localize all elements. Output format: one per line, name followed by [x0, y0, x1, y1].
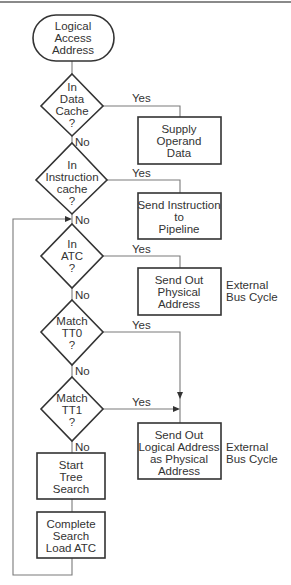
no-label: No: [75, 365, 90, 377]
svg-text:Tree: Tree: [59, 471, 82, 483]
svg-text:Search: Search: [53, 530, 89, 542]
arrowhead-right: [173, 406, 180, 412]
svg-text:Address: Address: [52, 44, 94, 56]
svg-text:Match: Match: [56, 315, 87, 327]
arrowhead-loop: [65, 216, 72, 222]
process-supply-operand-data: Supply Operand Data: [138, 117, 221, 164]
svg-text:cache: cache: [57, 183, 88, 195]
svg-text:Instruction: Instruction: [45, 171, 98, 183]
svg-text:Data: Data: [167, 147, 192, 159]
yes-label: Yes: [132, 319, 151, 331]
svg-text:Send Out: Send Out: [155, 429, 204, 441]
no-label: No: [75, 441, 90, 453]
svg-text:?: ?: [69, 195, 75, 207]
svg-text:?: ?: [69, 117, 75, 129]
external-bus-cycle-note: External: [226, 279, 268, 291]
svg-text:In: In: [67, 81, 77, 93]
decision-match-tt1: Match TT1 ? Yes No: [41, 377, 151, 453]
yes-label: Yes: [132, 396, 151, 408]
svg-text:Match: Match: [56, 392, 87, 404]
external-bus-cycle-note: Bus Cycle: [226, 291, 278, 303]
svg-text:TT1: TT1: [62, 404, 82, 416]
process-send-instruction: Send Instruction to Pipeline: [137, 193, 221, 239]
svg-text:Send Out: Send Out: [155, 274, 204, 286]
svg-text:Physical: Physical: [158, 286, 201, 298]
svg-text:?: ?: [69, 339, 75, 351]
external-bus-cycle-note: Bus Cycle: [226, 453, 278, 465]
svg-text:ATC: ATC: [61, 250, 83, 262]
svg-text:Pipeline: Pipeline: [159, 223, 200, 235]
svg-text:In: In: [67, 159, 77, 171]
svg-text:Send Instruction: Send Instruction: [137, 199, 220, 211]
yes-label: Yes: [132, 167, 151, 179]
svg-text:?: ?: [69, 416, 75, 428]
process-send-physical-address: Send Out Physical Address External Bus C…: [138, 268, 278, 315]
process-complete-search-load-atc: Complete Search Load ATC: [37, 512, 105, 558]
start-terminal: Logical Access Address: [33, 15, 114, 61]
svg-text:Start: Start: [59, 459, 84, 471]
svg-text:Logical: Logical: [55, 20, 91, 32]
decision-atc: In ATC ? Yes No: [41, 224, 151, 301]
no-label: No: [75, 289, 90, 301]
no-label: No: [75, 136, 90, 148]
yes-label: Yes: [132, 243, 151, 255]
flowchart-canvas: Logical Access Address In Data Cache ? Y…: [0, 0, 291, 585]
svg-text:Supply: Supply: [161, 123, 196, 135]
svg-text:Logical Address: Logical Address: [138, 441, 219, 453]
external-bus-cycle-note: External: [226, 441, 268, 453]
svg-text:as Physical: as Physical: [150, 453, 208, 465]
svg-text:?: ?: [69, 262, 75, 274]
svg-text:Access: Access: [54, 32, 91, 44]
svg-text:Address: Address: [158, 298, 200, 310]
yes-label: Yes: [132, 92, 151, 104]
svg-text:Address: Address: [158, 465, 200, 477]
process-start-tree-search: Start Tree Search: [37, 453, 105, 499]
svg-text:Cache: Cache: [55, 105, 88, 117]
svg-text:Data: Data: [60, 93, 85, 105]
decision-match-tt0: Match TT0 ? Yes No: [41, 300, 151, 377]
no-label: No: [75, 214, 90, 226]
svg-text:Complete: Complete: [46, 518, 95, 530]
svg-text:Search: Search: [53, 483, 89, 495]
arrowhead-down: [177, 392, 183, 399]
svg-text:Operand: Operand: [157, 135, 202, 147]
decision-data-cache: In Data Cache ? Yes No: [41, 74, 151, 148]
process-send-logical-as-physical: Send Out Logical Address as Physical Add…: [138, 423, 278, 479]
decision-instruction-cache: In Instruction cache ? Yes No: [36, 143, 151, 226]
svg-text:TT0: TT0: [62, 327, 82, 339]
svg-text:to: to: [174, 211, 184, 223]
svg-text:In: In: [67, 238, 77, 250]
svg-text:Load ATC: Load ATC: [46, 542, 96, 554]
